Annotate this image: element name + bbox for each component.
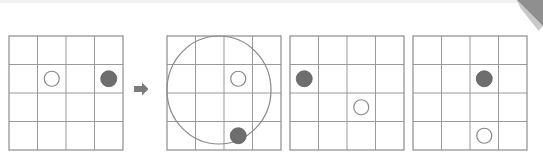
right-arrow-glyph (134, 83, 149, 96)
lasso-circle-stroke (167, 36, 271, 144)
filled-circle-token (476, 71, 492, 87)
grid-panel-lasso-gesture-state[interactable] (166, 35, 282, 151)
grid-panel-result-state-b[interactable] (412, 35, 528, 151)
page-curl-icon (511, 0, 543, 36)
filled-circle-token (296, 71, 312, 87)
filled-circle-token (101, 71, 117, 87)
top-band (0, 0, 543, 3)
grid-panel-initial-state[interactable] (8, 35, 124, 151)
figure-canvas (0, 0, 543, 160)
grid-panel-result-state-a[interactable] (289, 35, 405, 151)
filled-circle-token (230, 128, 246, 144)
open-circle-token (231, 71, 246, 86)
open-circle-token (354, 100, 369, 115)
right-arrow-icon (134, 82, 149, 100)
open-circle-token (477, 128, 492, 143)
open-circle-token (44, 71, 59, 86)
